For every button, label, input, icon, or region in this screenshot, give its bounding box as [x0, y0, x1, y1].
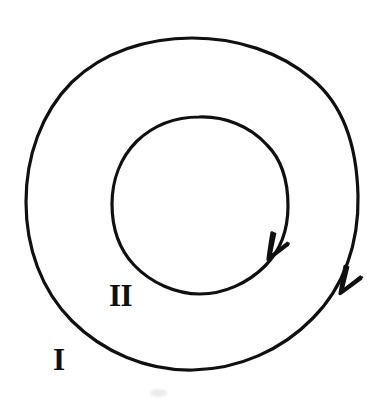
figure-canvas: I II: [0, 0, 390, 403]
paper-smudge: [150, 389, 167, 397]
inner-circle-label: II: [109, 280, 132, 311]
outer-circle-label: I: [53, 344, 64, 375]
outer-circle-group: [26, 38, 362, 370]
inner-circle-path: [112, 117, 288, 294]
outer-circle-path: [26, 38, 358, 370]
outer-circle-arrowhead: [340, 265, 363, 295]
inner-circle-group: [112, 117, 289, 294]
